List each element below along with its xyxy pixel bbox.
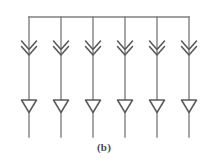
branch-5 xyxy=(150,17,165,137)
figure-b-schematic-diagram: (b) xyxy=(0,0,208,167)
branch-2 xyxy=(54,17,69,137)
branch-6 xyxy=(182,17,197,137)
nabla-triangle-down-icon xyxy=(150,100,165,113)
nabla-triangle-down-icon xyxy=(118,100,133,113)
branch-4 xyxy=(118,17,133,137)
branch-1 xyxy=(22,17,37,137)
nabla-triangle-down-icon xyxy=(22,100,37,113)
branch-3 xyxy=(86,17,101,137)
nabla-triangle-down-icon xyxy=(54,100,69,113)
nabla-triangle-down-icon xyxy=(86,100,101,113)
nabla-triangle-down-icon xyxy=(182,100,197,113)
figure-caption: (b) xyxy=(0,140,208,154)
